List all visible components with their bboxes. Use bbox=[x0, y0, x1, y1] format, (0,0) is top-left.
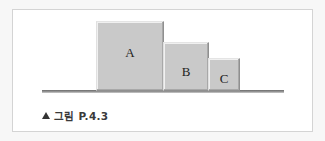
block-a: A bbox=[96, 21, 164, 91]
figure-caption: 그림 P.4.3 bbox=[42, 108, 108, 123]
block-c-label: C bbox=[220, 71, 229, 87]
block-b: B bbox=[163, 42, 209, 91]
block-b-label: B bbox=[182, 64, 191, 80]
block-c: C bbox=[208, 58, 240, 91]
caption-text: 그림 P.4.3 bbox=[54, 108, 108, 123]
block-a-label: A bbox=[125, 45, 134, 61]
triangle-up-icon bbox=[42, 112, 50, 119]
